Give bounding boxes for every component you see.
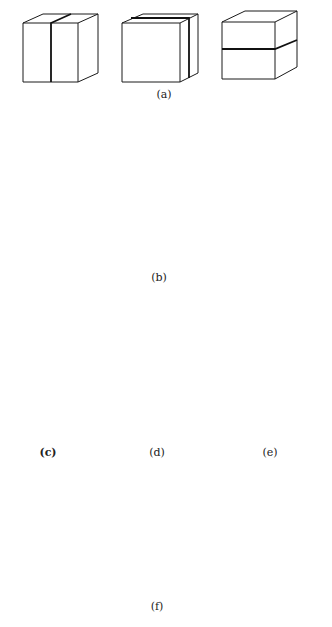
label-c: (c)	[39, 446, 56, 459]
label-e: (e)	[262, 446, 277, 459]
label-f: (f)	[151, 600, 164, 613]
cube-a1	[23, 14, 98, 82]
label-a: (a)	[156, 88, 171, 101]
cube-a3	[222, 11, 297, 79]
label-b: (b)	[151, 271, 167, 284]
label-d: (d)	[149, 446, 165, 459]
cube-a2	[122, 14, 198, 82]
